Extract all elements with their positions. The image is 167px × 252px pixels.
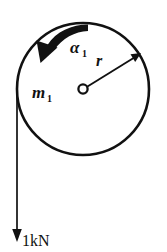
load-label: 1kN	[22, 232, 50, 249]
diagram-canvas: α 1 r m 1 1kN	[0, 0, 167, 252]
load-arrowhead	[12, 229, 22, 242]
pulley-diagram: α 1 r m 1 1kN	[0, 0, 167, 252]
alpha-label: α	[70, 38, 80, 57]
alpha-subscript: 1	[82, 48, 87, 59]
radius-arrowhead	[131, 53, 142, 62]
alpha-arc	[48, 25, 89, 50]
radius-line	[88, 57, 137, 87]
hub-circle	[78, 84, 87, 93]
mass-subscript: 1	[47, 93, 52, 104]
radius-label: r	[96, 52, 103, 69]
mass-label: m	[32, 83, 45, 102]
